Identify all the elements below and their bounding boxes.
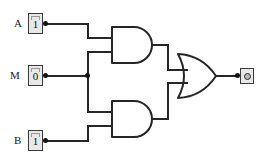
input-switch-a[interactable]: 1 (28, 13, 43, 34)
input-node-b (43, 138, 48, 143)
input-switch-b[interactable]: 1 (28, 130, 43, 151)
input-label-b: B (14, 135, 21, 146)
input-label-a: A (14, 18, 22, 29)
input-node-a (43, 21, 48, 26)
led-indicator-icon (244, 73, 251, 80)
input-node-m (43, 73, 48, 78)
wire-m-to-and-top (88, 52, 112, 76)
wire-a-to-and-top (46, 24, 112, 38)
input-value-a: 1 (33, 19, 39, 30)
input-value-m: 0 (33, 71, 39, 82)
wire-and-top-to-or (152, 45, 180, 70)
input-switch-m[interactable]: 0 (28, 65, 43, 86)
wire-b-to-and-bottom (46, 126, 112, 141)
input-value-b: 1 (33, 136, 39, 147)
junction-m-branch (85, 73, 90, 78)
circuit-canvas: A 1 M 0 B 1 (0, 0, 265, 165)
input-label-m: M (10, 70, 20, 81)
output-led[interactable] (240, 68, 254, 84)
wire-m-to-and-bottom (88, 76, 112, 112)
wire-and-bottom-to-or (152, 83, 180, 119)
